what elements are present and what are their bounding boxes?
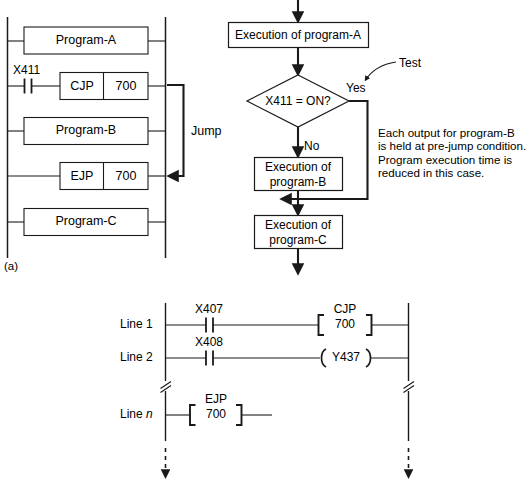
ejp-output-bracket-left: [190, 405, 196, 425]
ejp-instruction-label: EJP: [71, 170, 94, 183]
left-rail-break-mark: [161, 382, 172, 393]
exec-program-a-label: Execution of program-A: [235, 29, 361, 41]
program-c-box-label: Program-C: [55, 215, 116, 228]
line-1-output-value-label: 700: [335, 318, 355, 330]
line-n-output-type-label: EJP: [205, 393, 227, 405]
x411-contact-label: X411: [13, 64, 40, 76]
line-1-output-type-label: CJP: [334, 303, 357, 315]
jump-bracket-arrow: [167, 85, 184, 176]
figure-root: Program-A X411 CJP 700 Program-B EJP 700…: [0, 0, 532, 489]
cjp-output-bracket-left: [319, 315, 325, 335]
branch-no-label: No: [304, 140, 319, 152]
ejp-operand-label: 700: [116, 170, 137, 183]
decision-label: X411 = ON?: [265, 95, 330, 107]
cjp-output-bracket-right: [366, 315, 372, 335]
ladder-bottom-group: [161, 303, 415, 476]
line-2-label: Line 2: [120, 351, 153, 363]
coil-left-paren: [322, 349, 327, 367]
coil-right-paren: [366, 349, 371, 367]
exec-program-c-label-line2: program-C: [269, 234, 326, 246]
exec-program-b-label-line1: Execution of: [265, 161, 331, 173]
branch-yes-label: Yes: [346, 82, 366, 94]
line-2-output-value-label: Y437: [332, 351, 360, 363]
exec-program-c-label-line1: Execution of: [265, 219, 331, 231]
program-a-box-label: Program-A: [56, 34, 116, 47]
cjp-operand-label: 700: [116, 80, 137, 93]
jump-annotation-label: Jump: [191, 125, 222, 138]
line-1-label: Line 1: [120, 318, 153, 330]
jump-note-text: Each output for program-B is held at pre…: [378, 126, 530, 179]
line-n-label-italic: n: [146, 407, 153, 421]
line-n-label: Line n: [120, 408, 153, 420]
test-callout-arrow: [366, 62, 397, 80]
right-rail-break-mark: [404, 382, 415, 393]
ladder-row-line-1-wires: [166, 315, 409, 335]
exec-program-b-label-line2: program-B: [270, 176, 327, 188]
x407-contact-label: X407: [195, 303, 223, 315]
ladder-row-line-2-wires: [166, 349, 409, 367]
ejp-output-bracket-right: [236, 405, 242, 425]
figure-vector-layer: [0, 0, 532, 489]
test-callout-label: Test: [399, 57, 421, 69]
part-label-a: (a): [4, 261, 18, 273]
x408-contact-label: X408: [195, 336, 223, 348]
line-n-output-value-label: 700: [206, 408, 226, 420]
line-n-label-static: Line: [120, 407, 146, 421]
cjp-instruction-label: CJP: [70, 80, 94, 93]
program-b-box-label: Program-B: [56, 124, 116, 137]
